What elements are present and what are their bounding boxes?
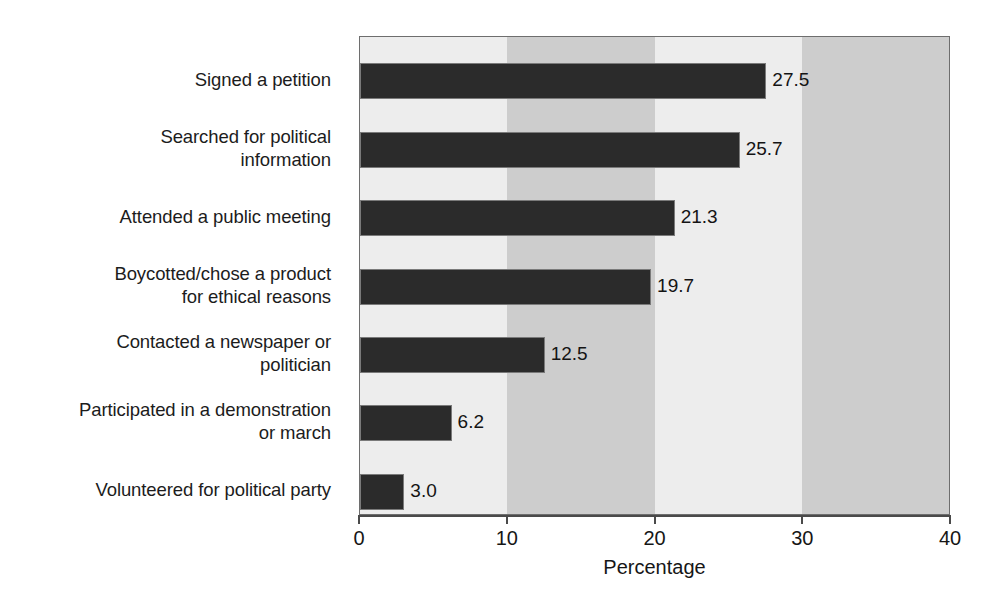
bar-2 xyxy=(360,132,740,168)
bar-5 xyxy=(360,337,545,373)
x-tick-mark xyxy=(949,515,951,524)
category-label: Contacted a newspaper orpolitician xyxy=(0,330,345,376)
category-label: Boycotted/chose a productfor ethical rea… xyxy=(0,262,345,308)
bottom-caption xyxy=(32,597,962,609)
bar-1 xyxy=(360,63,766,99)
category-label-line: information xyxy=(0,148,331,171)
bar-value-label: 3.0 xyxy=(410,481,436,500)
background-band-30-40 xyxy=(802,37,949,514)
bar-value-label: 6.2 xyxy=(458,412,484,431)
bar-value-label: 27.5 xyxy=(772,70,809,89)
category-label: Volunteered for political party xyxy=(0,478,345,501)
x-tick-label: 40 xyxy=(939,527,961,549)
category-label-line: Participated in a demonstration xyxy=(0,398,331,421)
x-tick-mark xyxy=(358,515,360,524)
bar-value-label: 12.5 xyxy=(551,344,588,363)
x-tick-mark xyxy=(801,515,803,524)
category-label-line: or march xyxy=(0,421,331,444)
category-label-line: Signed a petition xyxy=(0,68,331,91)
x-axis-title: Percentage xyxy=(359,556,950,579)
chart-figure: Signed a petitionSearched for politicali… xyxy=(0,0,994,609)
x-tick-label: 20 xyxy=(643,527,665,549)
x-tick-label: 0 xyxy=(353,527,364,549)
x-tick-mark xyxy=(654,515,656,524)
bar-4 xyxy=(360,269,651,305)
category-label-line: for ethical reasons xyxy=(0,285,331,308)
category-labels-axis: Signed a petitionSearched for politicali… xyxy=(0,36,345,515)
bar-value-label: 25.7 xyxy=(746,139,783,158)
bar-value-label: 21.3 xyxy=(681,207,718,226)
category-label: Participated in a demonstrationor march xyxy=(0,398,345,444)
x-tick-label: 30 xyxy=(791,527,813,549)
x-tick-mark xyxy=(506,515,508,524)
category-label-line: Volunteered for political party xyxy=(0,478,331,501)
category-label: Attended a public meeting xyxy=(0,205,345,228)
category-label-line: Searched for political xyxy=(0,125,331,148)
category-label-line: Contacted a newspaper or xyxy=(0,330,331,353)
category-label: Searched for politicalinformation xyxy=(0,125,345,171)
x-tick-label: 10 xyxy=(496,527,518,549)
category-label: Signed a petition xyxy=(0,68,345,91)
category-label-line: Boycotted/chose a product xyxy=(0,262,331,285)
category-label-line: politician xyxy=(0,353,331,376)
plot-area xyxy=(359,36,950,515)
bar-7 xyxy=(360,474,404,510)
category-label-line: Attended a public meeting xyxy=(0,205,331,228)
bar-6 xyxy=(360,405,452,441)
bar-value-label: 19.7 xyxy=(657,276,694,295)
bar-3 xyxy=(360,200,675,236)
